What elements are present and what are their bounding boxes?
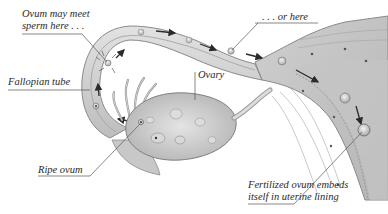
arrow-icon <box>246 54 262 58</box>
label-ovum-may-meet-line2: sperm here . . . <box>22 20 90 32</box>
label-fallopian-tube: Fallopian tube <box>8 76 70 88</box>
label-ripe-ovum: Ripe ovum <box>38 164 83 176</box>
arrow-icon <box>116 50 124 58</box>
label-ovum-may-meet: Ovum may meet sperm here . . . <box>22 8 90 32</box>
label-fertilized-ovum: Fertilized ovum embeds itself in uterine… <box>248 179 348 203</box>
ovary <box>126 90 270 160</box>
label-or-here: . . . or here <box>262 11 308 23</box>
uterine-wall <box>255 16 388 200</box>
label-ovary: Ovary <box>198 69 224 81</box>
reproductive-diagram: Ovum may meet sperm here . . . . . . or … <box>0 0 388 214</box>
label-ovum-may-meet-line1: Ovum may meet <box>22 8 90 20</box>
label-fertilized-line2: itself in uterine lining <box>248 191 348 203</box>
label-fertilized-line1: Fertilized ovum embeds <box>248 179 348 191</box>
